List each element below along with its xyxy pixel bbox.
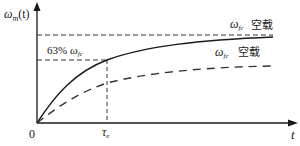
speed-response-diagram: ωm(t) ωfc 空载 ωfc 空载 63% ωfc 0 τe t <box>0 0 300 146</box>
lower-curve-label: ωfc <box>215 45 229 60</box>
y-axis-label: ωm(t) <box>4 7 30 23</box>
lower-response-curve <box>37 66 273 123</box>
sixty-three-percent-label: 63% ωfc <box>47 44 84 58</box>
x-axis-label: t <box>291 127 295 142</box>
lower-curve-condition: 空载 <box>238 45 260 59</box>
origin-label: 0 <box>29 127 35 141</box>
x-axis-arrow-icon <box>288 120 298 127</box>
y-axis-arrow-icon <box>34 2 41 11</box>
upper-curve-label: ωfc <box>230 17 244 32</box>
upper-curve-condition: 空载 <box>251 18 273 32</box>
tau-label: τe <box>102 125 109 140</box>
